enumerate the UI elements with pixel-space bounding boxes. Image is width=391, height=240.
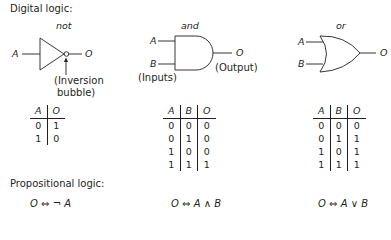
table-cell: 1 — [30, 132, 47, 145]
and-table-header: O — [198, 105, 216, 119]
table-row: 1 0 — [30, 132, 65, 145]
iff-symbol: ⇔ — [329, 198, 337, 209]
or-input-b-label: B — [298, 58, 305, 69]
table-cell: 0 — [313, 119, 330, 133]
table-cell: 1 — [180, 158, 198, 171]
table-cell: 1 — [348, 158, 366, 171]
not-truth-table: A O 0 1 1 0 — [30, 105, 65, 145]
not-triangle — [40, 38, 64, 70]
table-cell: 0 — [348, 119, 366, 133]
table-cell: 1 — [163, 145, 180, 158]
table-cell: 1 — [330, 132, 348, 145]
inversion-bubble-note-line1: (Inversion — [54, 75, 104, 87]
or-table-header: O — [348, 105, 366, 119]
table-cell: 1 — [47, 119, 65, 133]
bubble-arrow-head — [64, 58, 68, 63]
iff-symbol: ⇔ — [182, 198, 190, 209]
table-row: 0 0 0 — [163, 119, 216, 133]
or-table-header: A — [313, 105, 330, 119]
or-gate-symbol — [306, 36, 376, 72]
table-cell: 0 — [163, 132, 180, 145]
inversion-bubble-note-line2: bubble) — [57, 87, 95, 99]
and-gate-label: and — [181, 20, 199, 31]
or-gate-label: or — [336, 20, 346, 31]
table-cell: 0 — [198, 132, 216, 145]
and-body — [175, 36, 213, 70]
not-formula: O ⇔ ¬ A — [30, 198, 71, 209]
table-cell: 1 — [163, 158, 180, 171]
table-cell: 0 — [313, 132, 330, 145]
table-cell: 1 — [330, 158, 348, 171]
iff-symbol: ⇔ — [41, 198, 49, 209]
and-table-header: A — [163, 105, 180, 119]
inversion-bubble — [64, 52, 69, 57]
table-cell: 1 — [313, 158, 330, 171]
table-row: 0 1 0 — [163, 132, 216, 145]
not-input-a-label: A — [12, 48, 19, 59]
table-row: 1 0 0 — [163, 145, 216, 158]
or-table-header: B — [330, 105, 348, 119]
inputs-note: (Inputs) — [138, 72, 177, 84]
or-body — [320, 36, 360, 72]
table-cell: 1 — [180, 132, 198, 145]
table-row: 0 1 — [30, 119, 65, 133]
formula-lhs: O — [171, 198, 179, 209]
not-gate-label: not — [56, 20, 72, 31]
formula-rhs: A ∧ B — [194, 198, 221, 209]
table-cell: 0 — [330, 119, 348, 133]
output-note: (Output) — [215, 62, 258, 74]
table-cell: 0 — [163, 119, 180, 133]
or-truth-table: A B O 0 0 0 0 1 1 1 0 1 1 1 1 — [313, 105, 366, 171]
table-row: 1 1 1 — [163, 158, 216, 171]
formula-lhs: O — [318, 198, 326, 209]
table-cell: 0 — [180, 145, 198, 158]
formula-rhs: ¬ A — [53, 198, 71, 209]
table-cell: 0 — [198, 119, 216, 133]
and-input-b-label: B — [150, 58, 157, 69]
table-cell: 1 — [348, 145, 366, 158]
and-formula: O ⇔ A ∧ B — [171, 198, 221, 209]
and-truth-table: A B O 0 0 0 0 1 0 1 0 0 1 1 1 — [163, 105, 216, 171]
not-table-header: A — [30, 105, 47, 119]
and-output-label: O — [236, 47, 243, 58]
not-table-header: O — [47, 105, 65, 119]
formula-rhs: A ∨ B — [341, 198, 368, 209]
table-cell: 0 — [198, 145, 216, 158]
formula-lhs: O — [30, 198, 38, 209]
not-gate-symbol — [22, 38, 82, 75]
table-row: 1 1 1 — [313, 158, 366, 171]
or-input-a-label: A — [298, 36, 305, 47]
table-row: 1 0 1 — [313, 145, 366, 158]
and-input-a-label: A — [150, 35, 157, 46]
or-formula: O ⇔ A ∨ B — [318, 198, 368, 209]
table-row: 0 1 1 — [313, 132, 366, 145]
table-cell: 1 — [348, 132, 366, 145]
and-table-header: B — [180, 105, 198, 119]
table-cell: 0 — [180, 119, 198, 133]
table-cell: 0 — [47, 132, 65, 145]
or-output-label: O — [380, 47, 387, 58]
table-cell: 1 — [198, 158, 216, 171]
table-cell: 1 — [313, 145, 330, 158]
table-row: 0 0 0 — [313, 119, 366, 133]
table-cell: 0 — [330, 145, 348, 158]
not-output-label: O — [85, 48, 92, 59]
table-cell: 0 — [30, 119, 47, 133]
